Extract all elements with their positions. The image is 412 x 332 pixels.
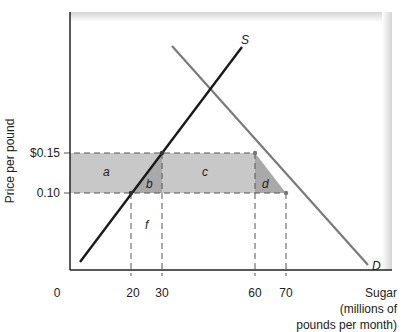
frame-right-shade (382, 12, 392, 270)
frame-top-shade (70, 12, 392, 22)
chart: S D a b c d f $0.15 0.10 0 20 30 60 70 P… (0, 0, 412, 332)
point-d-60 (253, 151, 257, 155)
point-s-30 (160, 151, 164, 155)
y-tick-015: $0.15 (30, 146, 60, 160)
region-b-label: b (146, 177, 153, 191)
x-tick-0: 0 (54, 286, 61, 300)
y-tick-010: 0.10 (37, 186, 61, 200)
point-d-70 (284, 191, 288, 195)
supply-label: S (241, 33, 249, 47)
x-axis-label-line1: Sugar (365, 286, 397, 300)
region-c-label: c (202, 165, 208, 179)
region-f-label: f (145, 218, 150, 232)
region-d-triangle (255, 153, 286, 193)
region-a-label: a (103, 165, 110, 179)
x-tick-70: 70 (279, 286, 293, 300)
y-axis-label: Price per pound (3, 119, 17, 204)
demand-label: D (372, 259, 381, 273)
region-d-label: d (262, 177, 269, 191)
x-tick-60: 60 (248, 286, 262, 300)
x-tick-20: 20 (126, 286, 140, 300)
x-axis-label-line2: (millions of (340, 302, 398, 316)
x-axis-label-line3: pounds per month) (296, 318, 397, 332)
x-tick-30: 30 (155, 286, 169, 300)
point-s-20 (129, 191, 133, 195)
